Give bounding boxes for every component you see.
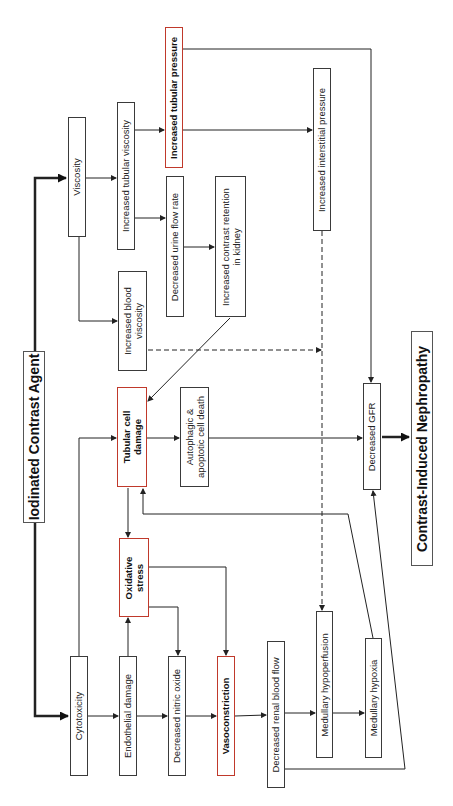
increased-contrast-retention-line2: in kidney xyxy=(230,228,241,266)
tubular-cell-damage-line1: Tubular cell xyxy=(121,411,132,464)
increased-tubular-pressure-label: Increased tubular pressure xyxy=(169,37,180,159)
increased-tubular-pressure-node: Increased tubular pressure xyxy=(165,27,183,168)
oxidative-stress-label: Oxidative stress xyxy=(124,556,145,599)
cytotoxicity-node: Cytotoxicity xyxy=(70,656,88,776)
contrast-induced-nephropathy-label: Contrast-Induced Nephropathy xyxy=(417,345,428,551)
autophagic-line1: Autophagic & xyxy=(183,409,194,466)
increased-contrast-retention-line1: Increased contrast retention xyxy=(219,188,230,306)
vasoconstriction-node: Vasoconstriction xyxy=(217,656,235,776)
decreased-nitric-oxide-label: Decreased nitric oxide xyxy=(172,669,183,763)
increased-tubular-viscosity-label: Increased tubular viscosity xyxy=(121,120,132,232)
oxidative-stress-line1: Oxidative xyxy=(123,556,134,599)
increased-tubular-viscosity-node: Increased tubular viscosity xyxy=(117,102,135,250)
tubular-cell-damage-line2: damage xyxy=(131,419,142,455)
iodinated-contrast-agent-label: Iodinated Contrast Agent xyxy=(29,354,40,521)
increased-blood-viscosity-line2: viscosity xyxy=(132,303,143,339)
decreased-renal-blood-flow-label: Decreased renal blood flow xyxy=(271,657,282,772)
increased-contrast-retention-node: Increased contrast retention in kidney xyxy=(215,176,246,317)
contrast-induced-nephropathy-node: Contrast-Induced Nephropathy xyxy=(411,331,433,566)
decreased-renal-blood-flow-node: Decreased renal blood flow xyxy=(267,641,285,788)
medullary-hypoxia-node: Medullary hypoxia xyxy=(365,638,382,758)
autophagic-line2: apoptotic cell death xyxy=(194,396,205,478)
autophagic-apoptotic-node: Autophagic & apoptotic cell death xyxy=(180,387,209,487)
endothelial-damage-label: Endothelial damage xyxy=(123,674,134,758)
increased-blood-viscosity-line1: Increased blood xyxy=(121,287,132,355)
medullary-hypoperfusion-label: Medullary hypoperfusion xyxy=(319,633,330,737)
medullary-hypoperfusion-node: Medullary hypoperfusion xyxy=(316,611,333,758)
increased-interstitial-pressure-node: Increased interstitial pressure xyxy=(313,68,331,231)
decreased-nitric-oxide-node: Decreased nitric oxide xyxy=(168,656,186,776)
decreased-gfr-node: Decreased GFR xyxy=(363,383,381,490)
tubular-cell-damage-label: Tubular cell damage xyxy=(122,411,143,464)
endothelial-damage-node: Endothelial damage xyxy=(119,656,137,776)
decreased-urine-flow-rate-node: Decreased urine flow rate xyxy=(166,176,184,317)
iodinated-contrast-agent-node: Iodinated Contrast Agent xyxy=(23,351,45,523)
cytotoxicity-label: Cytotoxicity xyxy=(74,692,85,741)
oxidative-stress-node: Oxidative stress xyxy=(119,538,149,617)
viscosity-label: Viscosity xyxy=(72,158,83,195)
medullary-hypoxia-label: Medullary hypoxia xyxy=(368,660,379,737)
decreased-urine-flow-rate-label: Decreased urine flow rate xyxy=(170,192,181,300)
decreased-gfr-label: Decreased GFR xyxy=(367,402,378,471)
increased-contrast-retention-label: Increased contrast retention in kidney xyxy=(220,188,241,306)
autophagic-apoptotic-label: Autophagic & apoptotic cell death xyxy=(184,396,205,478)
oxidative-stress-line2: stress xyxy=(133,564,144,592)
contrast-nephropathy-diagram: Iodinated Contrast Agent Viscosity Incre… xyxy=(0,0,453,806)
viscosity-node: Viscosity xyxy=(68,117,86,237)
tubular-cell-damage-node: Tubular cell damage xyxy=(117,387,147,487)
increased-blood-viscosity-label: Increased blood viscosity xyxy=(122,287,143,355)
increased-blood-viscosity-node: Increased blood viscosity xyxy=(118,271,147,371)
increased-interstitial-pressure-label: Increased interstitial pressure xyxy=(317,87,328,211)
vasoconstriction-label: Vasoconstriction xyxy=(221,678,232,755)
